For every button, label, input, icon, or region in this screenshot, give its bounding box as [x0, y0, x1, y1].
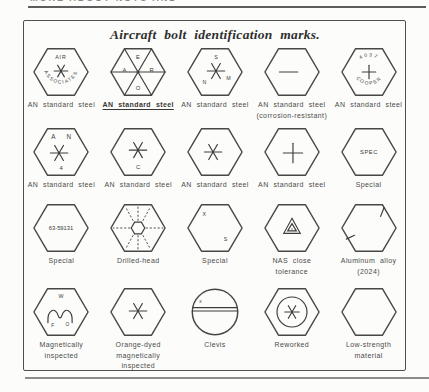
- bolt-label: AN standard steel: [104, 180, 171, 191]
- bolt-label: AN standard steel: [28, 100, 95, 111]
- mark-n: N: [67, 133, 72, 140]
- hex-cooper-icon: 4037 COOPER: [340, 46, 398, 98]
- bolt-cell-aluminum: Aluminum alloy(2024): [330, 202, 407, 286]
- bolt-label: AN standard steel: [258, 180, 325, 191]
- hex-snm-asterisk-icon: S N M: [186, 46, 244, 98]
- hex-nas-triangle-icon: x: [263, 202, 321, 254]
- figure-title: Aircraft bolt identification marks.: [23, 27, 407, 43]
- mark-part-number: 63-59131: [49, 225, 74, 231]
- hex-magnetic-logo-icon: W F O: [32, 286, 90, 338]
- mark-m: M: [226, 75, 230, 81]
- hex-orange-dyed-icon: [109, 286, 167, 338]
- bolt-cell-part-number: 63-59131 Special: [23, 202, 100, 286]
- bolt-label: Orange-dyedmagneticallyinspected: [116, 340, 161, 372]
- mark-o: O: [136, 85, 141, 91]
- mark-e: E: [136, 54, 140, 60]
- bolt-grid: AIR ASSOCIATES AN standard steel E A R O…: [23, 46, 407, 378]
- bolt-label: Drilled-head: [117, 256, 160, 267]
- plain-hex-icon: [340, 286, 398, 338]
- bolt-cell-drilled-head: Drilled-head: [100, 202, 177, 286]
- bottom-rule: [25, 377, 429, 379]
- bolt-cell-nas: x NAS closetolerance: [253, 202, 330, 286]
- bolt-cell-air-associates: AIR ASSOCIATES AN standard steel: [23, 46, 100, 126]
- hex-air-associates-icon: AIR ASSOCIATES: [32, 46, 90, 98]
- bolt-cell-c: C AN standard steel: [100, 126, 177, 202]
- mark-4: 4: [60, 165, 64, 171]
- hex-dash-icon: [263, 46, 321, 98]
- page-header-clipped: MORE ABOUT NUTS AND BOLTS: [30, 0, 180, 4]
- bolt-cell-plus: AN standard steel: [253, 126, 330, 202]
- mark-x: x: [199, 299, 202, 304]
- bolt-label: NAS closetolerance: [272, 256, 311, 277]
- bolt-label: Clevis: [204, 340, 225, 351]
- bolt-label: AN standard steel: [181, 100, 248, 111]
- mark-a: A: [123, 67, 127, 73]
- hex-part-number-icon: 63-59131: [32, 202, 90, 254]
- bolt-label: AN standard steel(corrosion-resistant): [256, 100, 327, 121]
- mark-r: R: [150, 67, 154, 73]
- mark-s: S: [224, 236, 228, 242]
- bolt-label: Special: [202, 256, 228, 267]
- hex-an4-icon: A N 4: [32, 126, 90, 178]
- mark-s: S: [214, 54, 218, 60]
- mark-x: X: [203, 211, 207, 217]
- bolt-label: Special: [356, 180, 382, 191]
- bolt-label: AN standard steel: [181, 180, 248, 191]
- bolt-cell-orange-dyed: Orange-dyedmagneticallyinspected: [100, 286, 177, 378]
- mark-c: C: [136, 164, 140, 170]
- bolt-cell-clevis: x Clevis: [177, 286, 254, 378]
- mark-inner-x: x: [291, 227, 293, 231]
- hex-plus-icon: [263, 126, 321, 178]
- mark-4037: 4037: [358, 52, 379, 60]
- bolt-label: Aluminum alloy(2024): [341, 256, 397, 277]
- bolt-cell-cooper: 4037 COOPER AN standard steel: [330, 46, 407, 126]
- mark-w: W: [59, 293, 64, 299]
- bolt-label: AN standard steel: [335, 100, 402, 111]
- hex-asterisk-icon: [186, 126, 244, 178]
- bolt-cell-aero: E A R O AN standard steel: [100, 46, 177, 126]
- hex-c-asterisk-icon: C: [109, 126, 167, 178]
- bolt-cell-spec: SPEC Special: [330, 126, 407, 202]
- hex-reworked-icon: [263, 286, 321, 338]
- hex-drilled-head-icon: [109, 202, 167, 254]
- bolt-label: Reworked: [274, 340, 309, 351]
- mark-spec: SPEC: [360, 149, 378, 155]
- mark-a: A: [52, 133, 57, 140]
- bolt-label: Magneticallyinspected: [40, 340, 84, 361]
- bolt-label: Low-strengthmaterial: [346, 340, 391, 361]
- hex-spec-icon: SPEC: [340, 126, 398, 178]
- bolt-cell-xs: X S Special: [177, 202, 254, 286]
- bolt-cell-reworked: Reworked: [253, 286, 330, 378]
- mark-o: O: [66, 323, 70, 328]
- bolt-cell-dash: AN standard steel(corrosion-resistant): [253, 46, 330, 126]
- bolt-label: AN standard steel: [28, 180, 95, 191]
- bolt-cell-snm: S N M AN standard steel: [177, 46, 254, 126]
- hex-raised-dashes-icon: [340, 202, 398, 254]
- bolt-label: AN standard steel: [103, 100, 174, 111]
- mark-f: F: [52, 323, 55, 328]
- clevis-circle-slot-icon: x: [186, 286, 244, 338]
- bolt-label: Special: [49, 256, 75, 267]
- bolt-cell-asterisk: AN standard steel: [177, 126, 254, 202]
- bolt-cell-magnetic: W F O Magneticallyinspected: [23, 286, 100, 378]
- top-rule: [28, 6, 426, 8]
- bolt-cell-an4: A N 4 AN standard steel: [23, 126, 100, 202]
- mark-n: N: [202, 79, 206, 85]
- mark-air: AIR: [56, 54, 68, 60]
- bolt-cell-low-strength: Low-strengthmaterial: [330, 286, 407, 378]
- hex-aero-spokes-icon: E A R O: [109, 46, 167, 98]
- hex-xs-icon: X S: [186, 202, 244, 254]
